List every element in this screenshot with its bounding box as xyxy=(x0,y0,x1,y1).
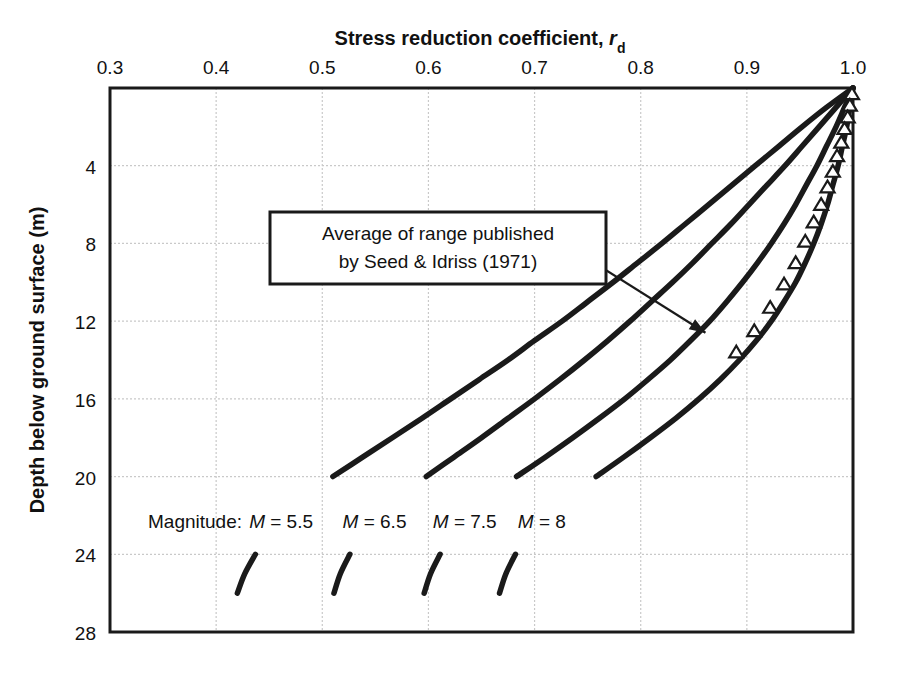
curve-label-m-5.5: M = 5.5 xyxy=(249,511,313,532)
y-tick-label: 8 xyxy=(85,234,96,255)
curve-label-m-7.5: M = 7.5 xyxy=(433,511,497,532)
x-tick-label: 0.5 xyxy=(309,57,335,78)
x-tick-label: 0.6 xyxy=(415,57,441,78)
magnitude-prefix-label: Magnitude: xyxy=(148,511,242,532)
y-tick-label: 28 xyxy=(75,623,96,644)
y-tick-label: 4 xyxy=(85,157,96,178)
curve-label-text: M = 8 xyxy=(518,511,566,532)
x-tick-label: 0.7 xyxy=(521,57,547,78)
curve-label-m-8: M = 8 xyxy=(518,511,566,532)
x-tick-label: 0.8 xyxy=(628,57,654,78)
annotation-line-2: by Seed & Idriss (1971) xyxy=(339,251,538,272)
y-tick-label: 20 xyxy=(75,468,96,489)
x-tick-label: 0.4 xyxy=(203,57,230,78)
curve-label-text: M = 5.5 xyxy=(249,511,313,532)
chart-background xyxy=(0,0,904,678)
x-tick-label: 0.3 xyxy=(97,57,123,78)
y-tick-label: 12 xyxy=(75,312,96,333)
curve-label-m-6.5: M = 6.5 xyxy=(343,511,407,532)
figure-container: Stress reduction coefficient, rd Depth b… xyxy=(0,0,904,678)
stress-reduction-chart: Stress reduction coefficient, rd Depth b… xyxy=(0,0,904,678)
x-tick-label: 0.9 xyxy=(734,57,760,78)
annotation-line-1: Average of range published xyxy=(322,223,554,244)
y-tick-label: 24 xyxy=(75,545,97,566)
x-tick-label: 1.0 xyxy=(840,57,866,78)
curve-label-text: M = 6.5 xyxy=(343,511,407,532)
y-axis-title: Depth below ground surface (m) xyxy=(26,207,48,514)
annotation-box: Average of range published by Seed & Idr… xyxy=(270,212,606,284)
curve-label-text: M = 7.5 xyxy=(433,511,497,532)
y-tick-label: 16 xyxy=(75,390,96,411)
